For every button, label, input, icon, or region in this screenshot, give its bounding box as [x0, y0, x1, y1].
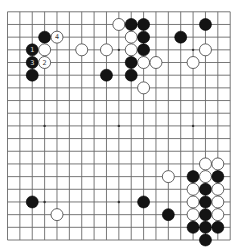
- move-number-label: 2: [43, 59, 47, 67]
- white-stone-disc: [212, 209, 224, 221]
- black-stone[interactable]: [199, 234, 211, 246]
- white-stone[interactable]: 4: [51, 31, 63, 43]
- black-stone[interactable]: [212, 221, 224, 233]
- black-stone-disc: [138, 18, 150, 30]
- white-stone-disc: [150, 57, 162, 69]
- white-stone[interactable]: [138, 82, 150, 94]
- black-stone-disc: [26, 196, 38, 208]
- black-stone[interactable]: [212, 171, 224, 183]
- white-stone[interactable]: [187, 209, 199, 221]
- black-stone-disc: [125, 18, 137, 30]
- white-stone[interactable]: [212, 183, 224, 195]
- white-stone[interactable]: [125, 31, 137, 43]
- black-stone[interactable]: [199, 196, 211, 208]
- star-point: [118, 49, 120, 51]
- star-point: [192, 49, 194, 51]
- white-stone-disc: [162, 171, 174, 183]
- white-stone-disc: [187, 209, 199, 221]
- black-stone[interactable]: [138, 196, 150, 208]
- black-stone-disc: [138, 44, 150, 56]
- black-stone-disc: [100, 69, 112, 81]
- black-stone-disc: [39, 31, 51, 43]
- white-stone[interactable]: [125, 44, 137, 56]
- black-stone[interactable]: 1: [26, 44, 38, 56]
- star-point: [192, 125, 194, 127]
- black-stone[interactable]: [138, 18, 150, 30]
- black-stone[interactable]: [125, 57, 137, 69]
- black-stone[interactable]: [187, 171, 199, 183]
- black-stone[interactable]: [199, 221, 211, 233]
- black-stone[interactable]: [187, 221, 199, 233]
- move-number-label: 4: [55, 33, 59, 41]
- white-stone[interactable]: [212, 196, 224, 208]
- white-stone-disc: [212, 183, 224, 195]
- black-stone[interactable]: [26, 69, 38, 81]
- white-stone-disc: [76, 44, 88, 56]
- white-stone[interactable]: [150, 57, 162, 69]
- white-stone[interactable]: [187, 183, 199, 195]
- white-stone-disc: [113, 18, 125, 30]
- black-stone-disc: [199, 221, 211, 233]
- black-stone[interactable]: [199, 209, 211, 221]
- black-stone-disc: [187, 171, 199, 183]
- go-board-canvas[interactable]: 4132: [0, 0, 240, 251]
- black-stone[interactable]: [199, 18, 211, 30]
- white-stone[interactable]: [199, 44, 211, 56]
- white-stone[interactable]: [212, 158, 224, 170]
- move-number-label: 3: [30, 59, 34, 67]
- star-point: [43, 125, 45, 127]
- star-point: [43, 201, 45, 203]
- black-stone[interactable]: [138, 31, 150, 43]
- white-stone[interactable]: [199, 171, 211, 183]
- black-stone-disc: [199, 18, 211, 30]
- black-stone-disc: [199, 209, 211, 221]
- white-stone[interactable]: [138, 57, 150, 69]
- black-stone[interactable]: [138, 44, 150, 56]
- black-stone[interactable]: 3: [26, 57, 38, 69]
- black-stone[interactable]: [125, 18, 137, 30]
- black-stone[interactable]: [162, 209, 174, 221]
- star-point: [118, 125, 120, 127]
- black-stone[interactable]: [199, 183, 211, 195]
- black-stone-disc: [187, 221, 199, 233]
- black-stone-disc: [138, 31, 150, 43]
- black-stone[interactable]: [39, 31, 51, 43]
- white-stone-disc: [199, 158, 211, 170]
- white-stone-disc: [39, 44, 51, 56]
- black-stone-disc: [125, 57, 137, 69]
- white-stone[interactable]: 2: [39, 57, 51, 69]
- white-stone[interactable]: [113, 18, 125, 30]
- star-point: [118, 201, 120, 203]
- white-stone-disc: [125, 31, 137, 43]
- white-stone[interactable]: [162, 171, 174, 183]
- go-board[interactable]: 4132: [0, 0, 240, 251]
- white-stone-disc: [212, 158, 224, 170]
- white-stone-disc: [100, 44, 112, 56]
- white-stone[interactable]: [39, 44, 51, 56]
- white-stone[interactable]: [76, 44, 88, 56]
- white-stone-disc: [125, 44, 137, 56]
- black-stone[interactable]: [100, 69, 112, 81]
- black-stone[interactable]: [26, 196, 38, 208]
- white-stone-disc: [199, 44, 211, 56]
- black-stone-disc: [175, 31, 187, 43]
- move-number-label: 1: [30, 46, 34, 54]
- white-stone[interactable]: [51, 209, 63, 221]
- black-stone[interactable]: [125, 69, 137, 81]
- black-stone[interactable]: [175, 31, 187, 43]
- white-stone-disc: [212, 196, 224, 208]
- black-stone-disc: [212, 171, 224, 183]
- white-stone[interactable]: [199, 158, 211, 170]
- white-stone-disc: [199, 171, 211, 183]
- white-stone[interactable]: [187, 196, 199, 208]
- white-stone-disc: [187, 57, 199, 69]
- black-stone-disc: [199, 196, 211, 208]
- black-stone-disc: [125, 69, 137, 81]
- white-stone-disc: [187, 196, 199, 208]
- white-stone[interactable]: [187, 57, 199, 69]
- white-stone[interactable]: [212, 209, 224, 221]
- white-stone[interactable]: [100, 44, 112, 56]
- white-stone-disc: [51, 209, 63, 221]
- white-stone-disc: [138, 82, 150, 94]
- white-stone-disc: [138, 57, 150, 69]
